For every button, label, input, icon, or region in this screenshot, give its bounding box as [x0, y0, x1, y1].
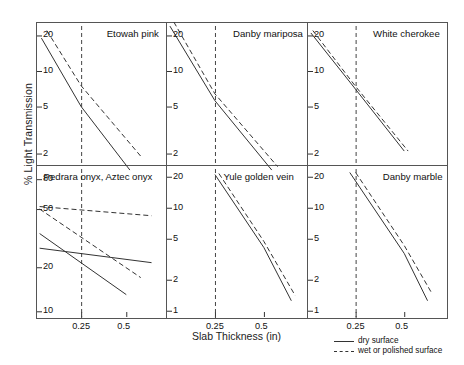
y-tick-label-danby-marble-1: 10	[314, 202, 324, 212]
y-tick-label-white-cherokee-0: 20	[314, 29, 324, 39]
x-tick-label-danby-marble-0: 0.25	[347, 321, 365, 331]
y-tick-label-etowah-pink-2: 5	[43, 101, 48, 111]
y-tick-label-yule-golden-vein-0: 20	[173, 171, 183, 181]
y-tick-label-etowah-pink-3: 2	[43, 148, 48, 158]
series-pedrara-aztec-onyx-0	[40, 207, 152, 216]
series-danby-marble-1	[356, 172, 432, 292]
y-tick-label-danby-marble-2: 5	[314, 233, 319, 243]
x-tick-label-yule-golden-vein-0: 0.25	[206, 321, 224, 331]
figure-light-transmission: % Light Transmission Slab Thickness (in)…	[0, 0, 464, 365]
panel-title-pedrara-aztec-onyx: Pedrara onyx, Aztec onyx	[44, 171, 153, 182]
series-danby-marble-0	[350, 172, 428, 300]
panel-title-white-cherokee: White cherokee	[373, 28, 440, 39]
panel-yule-golden-vein	[167, 169, 295, 318]
y-tick-label-yule-golden-vein-2: 5	[173, 233, 178, 243]
legend-item-wet-surface: wet or polished surface	[334, 346, 442, 356]
plot-canvas	[0, 0, 464, 365]
legend-label-dry-surface: dry surface	[358, 336, 399, 346]
panel-title-danby-mariposa: Danby mariposa	[233, 28, 303, 39]
series-white-cherokee-1	[313, 31, 408, 151]
y-tick-label-etowah-pink-1: 10	[43, 65, 53, 75]
series-pedrara-aztec-onyx-1	[40, 209, 141, 278]
panel-title-yule-golden-vein: Yule golden vein	[223, 171, 293, 182]
y-tick-label-yule-golden-vein-3: 2	[173, 274, 178, 284]
panel-etowah-pink	[37, 26, 141, 170]
legend-solid-line-icon	[334, 341, 354, 342]
y-tick-label-yule-golden-vein-4: 1	[173, 305, 178, 315]
y-tick-label-white-cherokee-3: 2	[314, 148, 319, 158]
series-etowah-pink-1	[47, 31, 141, 157]
series-pedrara-aztec-onyx-2	[40, 248, 152, 262]
x-tick-label-pedrara-aztec-onyx-0: 0.25	[72, 321, 90, 331]
legend-label-wet-surface: wet or polished surface	[358, 346, 442, 356]
panel-white-cherokee	[308, 26, 408, 165]
y-tick-label-danby-mariposa-0: 20	[173, 29, 183, 39]
x-tick-label-pedrara-aztec-onyx-1: 0.5	[117, 321, 130, 331]
y-tick-label-yule-golden-vein-1: 10	[173, 202, 183, 212]
y-tick-label-danby-marble-3: 2	[314, 274, 319, 284]
y-tick-label-danby-mariposa-3: 2	[173, 148, 178, 158]
y-tick-label-pedrara-aztec-onyx-2: 20	[43, 261, 53, 271]
x-tick-label-danby-marble-1: 0.5	[395, 321, 408, 331]
y-tick-label-danby-marble-4: 1	[314, 305, 319, 315]
series-yule-golden-vein-0	[215, 175, 291, 301]
y-tick-label-danby-marble-0: 20	[314, 171, 324, 181]
legend: dry surface wet or polished surface	[334, 336, 442, 356]
y-axis-label: % Light Transmission	[22, 54, 34, 214]
y-tick-label-etowah-pink-0: 20	[43, 29, 53, 39]
legend-item-dry-surface: dry surface	[334, 336, 442, 346]
panel-title-etowah-pink: Etowah pink	[107, 28, 159, 39]
series-danby-mariposa-1	[174, 22, 278, 167]
panel-danby-mariposa	[167, 22, 278, 170]
y-tick-label-white-cherokee-2: 5	[314, 101, 319, 111]
y-tick-label-pedrara-aztec-onyx-3: 10	[43, 305, 53, 315]
y-tick-label-white-cherokee-1: 10	[314, 65, 324, 75]
panel-title-danby-marble: Danby marble	[383, 171, 443, 182]
panel-pedrara-aztec-onyx	[37, 169, 152, 318]
panel-danby-marble	[308, 169, 431, 318]
x-axis-label: Slab Thickness (in)	[166, 330, 307, 342]
series-white-cherokee-0	[311, 33, 404, 151]
y-tick-label-danby-mariposa-2: 5	[173, 101, 178, 111]
legend-dashed-line-icon	[334, 351, 354, 352]
y-tick-label-pedrara-aztec-onyx-1: 50	[43, 203, 53, 213]
x-tick-label-yule-golden-vein-1: 0.5	[255, 321, 268, 331]
series-danby-mariposa-0	[170, 26, 272, 170]
y-tick-label-danby-mariposa-1: 10	[173, 65, 183, 75]
series-etowah-pink-0	[41, 38, 129, 170]
series-yule-golden-vein-1	[219, 174, 295, 296]
